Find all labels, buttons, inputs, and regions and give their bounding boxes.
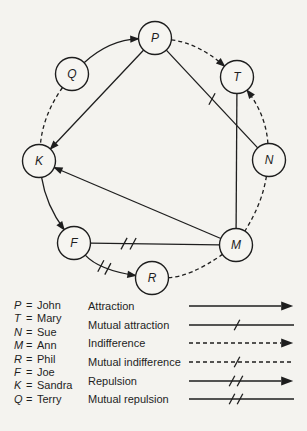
slash-mark xyxy=(98,260,104,272)
edge-K-F-attraction xyxy=(42,177,65,230)
legend-person-P: P=John xyxy=(14,299,72,312)
relation-line-sample-indifference xyxy=(187,335,297,351)
person-name: Terry xyxy=(37,393,61,405)
edge-F-M-mutual-repulsion xyxy=(91,238,220,250)
edge-Q-P-attraction xyxy=(84,36,140,63)
arrowhead xyxy=(281,302,293,311)
edge-R-M-line-dashed xyxy=(169,254,223,277)
relation-label: Mutual indifference xyxy=(88,356,187,368)
person-symbol: M xyxy=(14,339,26,352)
node-label-K: K xyxy=(35,154,44,168)
person-name: Ann xyxy=(37,339,57,351)
edge-line xyxy=(169,254,223,277)
person-name: Sue xyxy=(37,326,57,338)
edge-N-M-line-dashed xyxy=(245,176,267,231)
person-symbol: R xyxy=(14,353,26,366)
edge-line xyxy=(40,88,62,145)
legend-names: P=JohnT=MaryN=SueM=AnnR=PhilF=JoeK=Sandr… xyxy=(14,299,72,406)
sociogram-figure: PQTKNFMR P=JohnT=MaryN=SueM=AnnR=PhilF=J… xyxy=(0,0,307,431)
legend-person-K: K=Sandra xyxy=(14,379,72,392)
legend-relations: AttractionMutual attractionIndifferenceM… xyxy=(88,297,297,409)
slash-mark xyxy=(105,263,111,275)
relation-line-sample-mutual-indifference xyxy=(187,354,297,370)
edge-T-M-line-solid xyxy=(236,94,237,229)
person-symbol: P xyxy=(14,299,26,312)
arrowhead xyxy=(281,376,293,385)
relation-label: Indifference xyxy=(88,337,187,349)
node-P: P xyxy=(139,22,172,55)
edge-F-R-repulsion xyxy=(85,255,137,278)
equals-sign: = xyxy=(26,299,37,312)
sociogram-svg: PQTKNFMR xyxy=(0,0,307,298)
equals-sign: = xyxy=(26,379,37,392)
edge-line xyxy=(84,39,138,63)
person-symbol: T xyxy=(14,312,26,325)
legend-relation-mutual-attraction: Mutual attraction xyxy=(88,316,297,335)
node-label-N: N xyxy=(265,153,274,167)
edge-N-T-indifference xyxy=(246,89,268,143)
equals-sign: = xyxy=(26,366,37,379)
relation-label: Attraction xyxy=(88,300,187,312)
node-F: F xyxy=(58,227,91,260)
equals-sign: = xyxy=(26,312,37,325)
equals-sign: = xyxy=(26,326,37,339)
legend-person-R: R=Phil xyxy=(14,353,72,366)
slash-mark xyxy=(209,93,215,104)
person-name: Sandra xyxy=(37,379,72,391)
node-N: N xyxy=(253,144,286,177)
person-symbol: K xyxy=(14,379,26,392)
arrowhead xyxy=(216,58,226,67)
arrowhead xyxy=(56,221,65,231)
edge-line xyxy=(91,243,220,245)
node-label-F: F xyxy=(70,236,78,250)
legend-person-M: M=Ann xyxy=(14,339,72,352)
node-Q: Q xyxy=(56,58,89,91)
edge-line xyxy=(42,177,65,229)
person-symbol: N xyxy=(14,326,26,339)
legend-relation-mutual-repulsion: Mutual repulsion xyxy=(88,390,297,409)
equals-sign: = xyxy=(26,353,37,366)
edge-line xyxy=(245,176,267,231)
node-K: K xyxy=(23,145,56,178)
person-symbol: Q xyxy=(14,393,26,406)
legend-relation-attraction: Attraction xyxy=(88,297,297,316)
edge-P-T-indifference xyxy=(171,40,225,67)
legend-relation-mutual-indifference: Mutual indifference xyxy=(88,353,297,372)
relation-label: Mutual attraction xyxy=(88,319,187,331)
arrowhead xyxy=(246,89,255,99)
edge-line xyxy=(171,40,224,66)
legend-person-F: F=Joe xyxy=(14,366,72,379)
legend-person-Q: Q=Terry xyxy=(14,393,72,406)
legend-person-N: N=Sue xyxy=(14,326,72,339)
node-label-Q: Q xyxy=(67,67,76,81)
relation-label: Repulsion xyxy=(88,375,187,387)
relation-line-sample-mutual-attraction xyxy=(187,317,297,333)
equals-sign: = xyxy=(26,339,37,352)
node-label-M: M xyxy=(231,238,241,252)
person-symbol: F xyxy=(14,366,26,379)
node-label-P: P xyxy=(151,31,159,45)
node-R: R xyxy=(136,262,169,295)
legend-person-T: T=Mary xyxy=(14,312,72,325)
person-name: Mary xyxy=(37,312,61,324)
edge-line xyxy=(236,94,237,229)
relation-line-sample-repulsion xyxy=(187,373,297,389)
relation-label: Mutual repulsion xyxy=(88,393,187,405)
node-label-R: R xyxy=(148,271,157,285)
node-T: T xyxy=(221,61,254,94)
legend-relation-indifference: Indifference xyxy=(88,334,297,353)
relation-line-sample-attraction xyxy=(187,298,297,314)
arrowhead xyxy=(281,339,293,348)
equals-sign: = xyxy=(26,393,37,406)
person-name: Joe xyxy=(37,366,55,378)
edge-Q-K-line-dashed xyxy=(40,88,62,145)
node-M: M xyxy=(220,229,253,262)
legend-relation-repulsion: Repulsion xyxy=(88,371,297,390)
person-name: Phil xyxy=(37,353,55,365)
relation-line-sample-mutual-repulsion xyxy=(187,391,297,407)
person-name: John xyxy=(37,299,61,311)
